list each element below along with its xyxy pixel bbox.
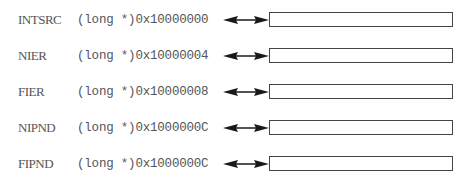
- register-row-fipnd: FIPND (long *)0x1000000C: [0, 156, 468, 172]
- register-address: (long *)0x1000000C: [77, 156, 208, 172]
- register-box: [269, 84, 453, 99]
- register-box: [269, 12, 453, 27]
- double-arrow-icon: [223, 84, 269, 100]
- register-name: FIPND: [18, 156, 53, 172]
- register-box: [269, 156, 453, 171]
- register-address: (long *)0x10000004: [77, 48, 208, 64]
- register-name: FIER: [18, 84, 44, 100]
- register-address: (long *)0x10000000: [77, 12, 208, 28]
- double-arrow-icon: [223, 12, 269, 28]
- register-box: [269, 48, 453, 63]
- double-arrow-icon: [223, 120, 269, 136]
- register-row-intsrc: INTSRC (long *)0x10000000: [0, 12, 468, 28]
- register-name: NIER: [18, 48, 46, 64]
- double-arrow-icon: [223, 48, 269, 64]
- double-arrow-icon: [223, 156, 269, 172]
- register-name: INTSRC: [18, 12, 61, 28]
- register-address: (long *)0x10000008: [77, 84, 208, 100]
- register-row-nier: NIER (long *)0x10000004: [0, 48, 468, 64]
- register-box: [269, 120, 453, 135]
- register-address: (long *)0x1000000C: [77, 120, 208, 136]
- register-name: NIPND: [18, 120, 55, 136]
- register-row-nipnd: NIPND (long *)0x1000000C: [0, 120, 468, 136]
- register-row-fier: FIER (long *)0x10000008: [0, 84, 468, 100]
